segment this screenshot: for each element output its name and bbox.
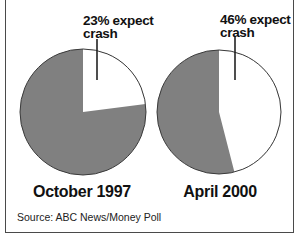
slice-label-october: 23% expect crash <box>83 14 154 40</box>
slice-label-line2: crash <box>220 26 291 39</box>
pie-title-october: October 1997 <box>12 183 152 201</box>
pie-slice-expect-crash <box>83 49 146 112</box>
pie-october-1997 <box>20 39 146 175</box>
pie-april-2000 <box>157 37 281 174</box>
slice-label-line2: crash <box>83 27 154 40</box>
pie-title-april: April 2000 <box>150 183 290 201</box>
source-note: Source: ABC News/Money Poll <box>17 211 161 223</box>
slice-label-april: 46% expect crash <box>220 13 291 39</box>
